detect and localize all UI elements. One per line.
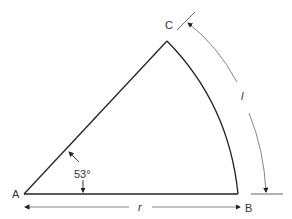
extension-line-c (177, 12, 195, 30)
point-label-b: B (245, 202, 252, 214)
radius-line-ac (24, 41, 167, 194)
radius-label: r (138, 201, 143, 213)
sector-diagram: l r 53° A B C (0, 0, 292, 219)
angle-label: 53° (74, 168, 91, 180)
arc-bc (167, 41, 238, 194)
point-label-c: C (165, 19, 173, 31)
arc-length-label: l (241, 90, 244, 102)
arc-length-arrow-upper (188, 23, 237, 82)
arc-length-arrow-lower (249, 113, 266, 192)
point-label-a: A (12, 188, 20, 200)
angle-arrow-upper (69, 152, 79, 162)
